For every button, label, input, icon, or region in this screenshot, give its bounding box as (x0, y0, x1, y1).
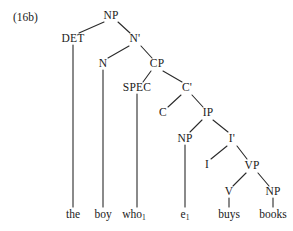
tree-node-det: DET (62, 33, 85, 45)
tree-node-nbar: N' (130, 33, 141, 45)
tree-node-n: N (99, 58, 108, 70)
terminal-text: books (259, 208, 286, 220)
tree-node-spec: SPEC (123, 82, 151, 94)
tree-terminal-e: e1 (181, 209, 190, 221)
branch-line-ibar-to-vp (237, 146, 247, 159)
terminal-text: boy (94, 208, 111, 220)
tree-node-v: V (225, 186, 234, 198)
terminal-index-subscript: 1 (186, 213, 190, 222)
branch-line-cbar-to-c (168, 95, 181, 107)
branch-line-group (79, 22, 269, 186)
tree-node-np: NP (103, 10, 118, 22)
tree-lines (0, 0, 293, 231)
tree-node-np3: NP (265, 186, 280, 198)
tree-terminal-the: the (66, 209, 80, 221)
tree-node-cbar: C' (182, 82, 192, 94)
tree-terminal-buys: buys (218, 209, 240, 221)
branch-line-ip-to-np2 (190, 120, 202, 132)
tree-node-c: C (159, 107, 167, 119)
terminal-text: the (66, 208, 80, 220)
tree-node-np2: NP (177, 133, 192, 145)
branch-line-cbar-to-ip (192, 95, 203, 107)
tree-terminal-books: books (259, 209, 286, 221)
tree-terminal-who: who1 (122, 209, 146, 221)
tree-terminal-boy: boy (94, 209, 111, 221)
syntax-tree-figure: (16b) NPDETN'NCPSPECC'CIPNPI'IVPVNP theb… (0, 0, 293, 231)
tree-node-ip: IP (203, 107, 214, 119)
terminal-index-subscript: 1 (142, 213, 146, 222)
tree-node-vp: VP (244, 160, 259, 172)
branch-line-np-to-nbar (118, 22, 130, 33)
branch-line-ip-to-ibar (213, 120, 228, 132)
branch-line-cp-to-cbar (163, 71, 182, 82)
branch-line-vp-to-np3 (258, 173, 269, 186)
tree-node-i: I (205, 159, 209, 171)
tree-node-cp: CP (150, 58, 164, 70)
branch-line-nbar-to-n (108, 46, 129, 58)
branch-line-vp-to-v (233, 173, 246, 186)
branch-line-ibar-to-i (211, 146, 227, 159)
branch-line-nbar-to-cp (141, 46, 152, 58)
terminal-text: buys (218, 208, 240, 220)
tree-node-ibar: I' (229, 133, 235, 145)
terminal-text: who (122, 208, 142, 220)
